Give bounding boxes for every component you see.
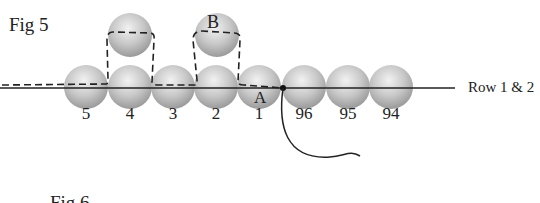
figure-5-title: Fig 5 bbox=[9, 14, 49, 36]
bead-number: 2 bbox=[212, 104, 221, 124]
row-label: Row 1 & 2 bbox=[468, 79, 534, 96]
bead-number: 5 bbox=[82, 104, 91, 124]
figure-6-title: Fig 6 bbox=[50, 192, 90, 203]
top-beads bbox=[108, 13, 239, 57]
bead bbox=[108, 65, 152, 109]
bead bbox=[194, 65, 238, 109]
bead-number: 96 bbox=[296, 104, 313, 124]
bead-number: 95 bbox=[340, 104, 357, 124]
bead-diagram bbox=[0, 0, 540, 203]
bead bbox=[282, 65, 326, 109]
bead-number: 94 bbox=[383, 104, 400, 124]
bead bbox=[64, 65, 108, 109]
bead-number: 3 bbox=[169, 104, 178, 124]
bead bbox=[369, 65, 413, 109]
point-b-label: B bbox=[207, 12, 219, 33]
bead-number: 4 bbox=[126, 104, 135, 124]
bead bbox=[326, 65, 370, 109]
row-beads bbox=[64, 65, 413, 109]
bead-number: 1 bbox=[255, 104, 264, 124]
bead bbox=[151, 65, 195, 109]
top-bead bbox=[108, 13, 152, 57]
